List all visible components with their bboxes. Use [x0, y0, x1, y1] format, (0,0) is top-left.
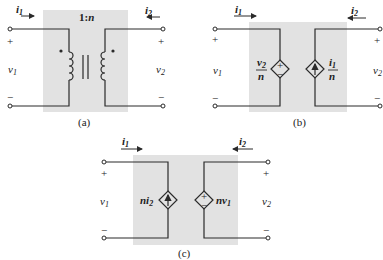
i2-label: i2	[145, 4, 152, 18]
v1-minus: −	[101, 224, 107, 236]
terminal-icon	[161, 104, 165, 108]
svg-text:−: −	[201, 199, 207, 211]
v2-label: v2	[262, 195, 271, 209]
v2-minus: −	[263, 224, 269, 236]
v1-plus: +	[101, 167, 107, 179]
panel-a-caption: (a)	[78, 116, 91, 129]
i2-label: i2	[351, 4, 358, 18]
v1-minus: −	[7, 91, 13, 103]
terminal-icon	[102, 160, 106, 164]
terminal-icon	[266, 236, 270, 240]
terminal-icon	[8, 104, 12, 108]
terminal-icon	[102, 236, 106, 240]
turns-ratio-label: 1:n	[79, 11, 94, 23]
v2-plus: +	[263, 167, 269, 179]
v2-minus: −	[158, 91, 164, 103]
svg-text:n: n	[258, 70, 264, 82]
panel-b-caption: (b)	[293, 116, 306, 129]
i2-label: i2	[239, 135, 246, 149]
transformer-equivalent-circuits: i1 i2 1:n + − v1 + − v2 (a) + −	[0, 0, 383, 260]
terminal-icon	[378, 27, 382, 31]
terminal-icon	[161, 27, 165, 31]
terminal-icon	[8, 27, 12, 31]
terminal-icon	[378, 104, 382, 108]
v2-plus: +	[374, 34, 380, 46]
v2-minus: −	[374, 92, 380, 104]
v2-label: v2	[373, 64, 382, 78]
panel-a-ideal-transformer: i1 i2 1:n + − v1 + − v2 (a)	[7, 3, 165, 129]
panel-c-caption: (c)	[178, 247, 191, 260]
v2-label: v2	[156, 63, 165, 77]
v1-label: v1	[213, 64, 222, 78]
panel-c-controlled-sources: + − i1 i2 + − v1 + − v2 ni2 nv1 (c)	[100, 135, 271, 260]
svg-text:n: n	[329, 70, 335, 82]
v1-label: v1	[8, 63, 17, 77]
i1-label: i1	[122, 135, 129, 149]
v1-plus: +	[212, 33, 218, 45]
polarity-dot-icon	[59, 49, 62, 52]
terminal-icon	[266, 160, 270, 164]
v1-label: v1	[100, 195, 109, 209]
polarity-dot-icon	[111, 49, 114, 52]
v2-plus: +	[158, 35, 164, 47]
shaded-region	[43, 10, 128, 112]
svg-text:−: −	[277, 68, 283, 80]
i1-label: i1	[235, 3, 242, 17]
v1-minus: −	[212, 92, 218, 104]
i1-label: i1	[16, 3, 23, 17]
terminal-icon	[213, 104, 217, 108]
terminal-icon	[213, 27, 217, 31]
panel-b-controlled-sources: + − i1 i2 + − v1 + − v2 v2 n i1	[212, 3, 382, 129]
v1-plus: +	[7, 35, 13, 47]
